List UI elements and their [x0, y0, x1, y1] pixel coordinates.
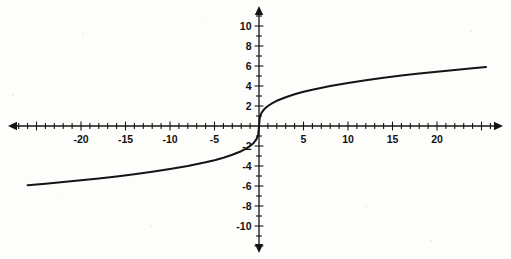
function-curve-negative-branch	[28, 126, 259, 185]
x-axis-arrow-right	[494, 122, 503, 130]
x-axis-tick-label: -20	[73, 133, 88, 145]
scan-artifact-speck	[82, 33, 84, 35]
scan-artifact-speck	[12, 94, 14, 96]
scan-artifact-speck	[470, 30, 472, 32]
chart-figure: -20-15-10-55101520108642-2-4-6-8-10	[0, 0, 511, 259]
x-axis-tick-label: -5	[210, 133, 219, 145]
coordinate-plane-svg: -20-15-10-55101520108642-2-4-6-8-10	[0, 0, 511, 259]
scan-artifact-speck	[60, 198, 61, 199]
scan-artifact-speck	[150, 225, 152, 227]
scan-artifact-speck	[365, 205, 367, 207]
y-axis-tick-label: 10	[240, 20, 252, 32]
x-axis-tick-label: 5	[301, 133, 307, 145]
y-axis-tick-label: 2	[246, 100, 252, 112]
y-axis-tick-label: -8	[242, 200, 251, 212]
x-axis-tick-label: -10	[162, 133, 177, 145]
y-axis-tick-label: -10	[236, 220, 251, 232]
x-axis-tick-label: 15	[387, 133, 399, 145]
x-axis-arrow-left	[8, 122, 17, 130]
scan-artifact-speck	[430, 240, 432, 242]
y-axis-tick-label: 8	[246, 40, 252, 52]
y-axis-tick-label: 6	[246, 60, 252, 72]
x-axis-tick-label: 10	[342, 133, 354, 145]
y-axis-tick-label: -6	[242, 180, 251, 192]
y-axis-tick-label: 4	[246, 80, 252, 92]
y-axis-arrow-down	[255, 244, 263, 253]
y-axis-arrow-up	[255, 6, 263, 15]
y-axis-tick-label: -4	[242, 160, 251, 172]
x-axis-tick-label: 20	[431, 133, 443, 145]
scan-artifact-speck	[200, 18, 201, 19]
function-curve-positive-branch	[259, 67, 486, 126]
x-axis-tick-label: -15	[118, 133, 133, 145]
